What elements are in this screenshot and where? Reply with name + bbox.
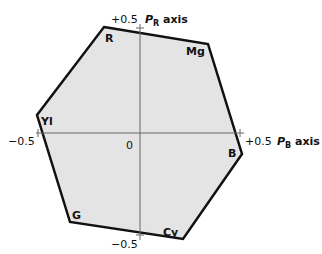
vertex-label-mg: Mg	[186, 45, 205, 58]
pr-axis-suffix: axis	[159, 13, 188, 26]
hexagon-diagram: R Mg B Cy G Yl +0.5 −0.5 −0.5 +0.5 0 PR …	[0, 0, 322, 254]
vertex-label-cy: Cy	[163, 226, 178, 239]
pr-max-label: +0.5	[111, 13, 138, 26]
origin-label: 0	[126, 139, 133, 152]
pr-axis-label: PR axis	[145, 13, 188, 28]
vertex-label-b: B	[228, 147, 236, 160]
pb-min-label: −0.5	[8, 135, 35, 148]
pr-min-label: −0.5	[111, 238, 138, 251]
pr-axis-prefix: P	[145, 13, 153, 26]
vertex-label-yl: Yl	[40, 115, 53, 128]
pb-axis-label: PB axis	[277, 135, 320, 150]
pb-axis-prefix: P	[277, 135, 285, 148]
vertex-label-g: G	[72, 209, 81, 222]
pb-axis-suffix: axis	[291, 135, 320, 148]
pb-max-label: +0.5	[245, 135, 272, 148]
vertex-label-r: R	[105, 32, 114, 45]
